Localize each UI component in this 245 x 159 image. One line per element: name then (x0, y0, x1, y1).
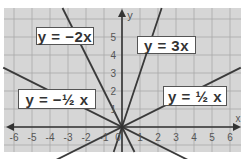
x-axis-name: x (236, 113, 241, 124)
x-tick-label: 1 (137, 132, 143, 143)
label-y-neg2x: y = −2x (36, 27, 94, 45)
x-tick-label: -4 (46, 132, 55, 143)
y-tick-label: 1 (110, 104, 116, 115)
x-tick-label: -2 (82, 132, 91, 143)
x-tick-label: 0 (115, 132, 121, 143)
x-tick-label: 4 (191, 132, 197, 143)
x-tick-label: 5 (209, 132, 215, 143)
y-axis-name: y (127, 9, 133, 21)
y-tick-label: 5 (110, 32, 116, 43)
coordinate-plane: -6-5-4-3-2-1012345612345xy (0, 0, 245, 159)
x-tick-label: -5 (28, 132, 37, 143)
x-tick-label: 6 (227, 132, 233, 143)
x-tick-label: 3 (173, 132, 179, 143)
x-tick-label: 2 (155, 132, 161, 143)
y-tick-label: 2 (110, 86, 116, 97)
label-y-neghalfx: y = −½ x (18, 89, 96, 109)
y-tick-label: 4 (110, 50, 116, 61)
label-y-3x: y = 3x (137, 36, 196, 54)
label-y-poshalfx: y = ½ x (163, 86, 227, 106)
y-tick-label: 3 (110, 68, 116, 79)
x-tick-label: -3 (64, 132, 73, 143)
x-tick-label: -6 (10, 132, 19, 143)
x-tick-label: -1 (100, 132, 109, 143)
